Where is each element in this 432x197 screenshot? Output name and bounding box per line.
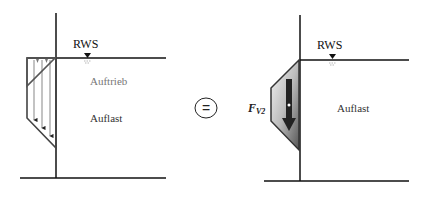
water-level-marker-icon: [84, 53, 91, 58]
water-level-label: RWS: [317, 38, 342, 52]
load-label: Auflast: [337, 102, 369, 114]
load-arrows: [34, 60, 50, 136]
water-level-label: RWS: [73, 37, 98, 51]
right-diagram: RWS F V2 Auflast: [247, 15, 409, 181]
equals-sign: =: [195, 98, 217, 118]
buoyancy-arrow-icon: [45, 59, 48, 63]
load-label: Auflast: [90, 112, 122, 124]
equals-symbol: =: [202, 100, 210, 116]
buoyancy-label: Auftrieb: [90, 75, 128, 87]
equivalence-diagram: RWS Auftrieb Auflast = RWS F V2 Auflast: [0, 0, 432, 197]
force-subscript: V2: [256, 107, 265, 116]
buoyancy-arrow-icon: [36, 59, 39, 63]
buoyancy-triangle: [27, 58, 55, 86]
resultant-force-shape: [271, 60, 299, 150]
water-level-marker-icon: [329, 54, 336, 59]
force-label: F: [247, 101, 256, 115]
left-diagram: RWS Auftrieb Auflast: [20, 13, 166, 178]
